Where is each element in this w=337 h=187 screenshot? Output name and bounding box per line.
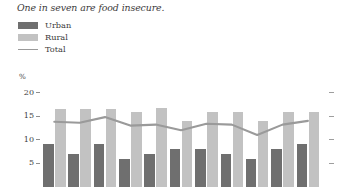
total-line-path xyxy=(54,117,308,135)
total-line-series xyxy=(0,0,337,187)
chart-figure: One in seven are food insecure. Urban Ru… xyxy=(0,0,337,187)
